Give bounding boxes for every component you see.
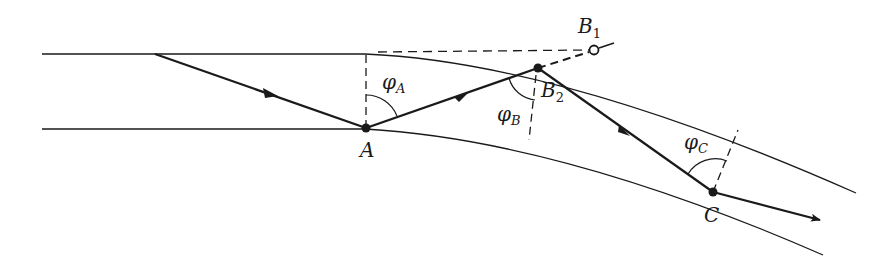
ray-diagram: A B1 B2 C φA φB φC xyxy=(0,0,894,269)
point-C xyxy=(709,188,718,197)
upper-boundary xyxy=(42,54,856,193)
direction-arrow-3 xyxy=(618,125,630,136)
label-phi-C: φC xyxy=(684,130,708,156)
label-phi-B: φB xyxy=(497,102,521,128)
point-B1 xyxy=(590,46,599,55)
label-C: C xyxy=(704,203,719,227)
angle-arc-B xyxy=(509,78,535,100)
label-B1: B1 xyxy=(577,14,601,41)
normal-at-B xyxy=(529,75,536,140)
point-B2 xyxy=(534,64,543,73)
direction-arrow-2 xyxy=(454,92,469,102)
label-phi-A: φA xyxy=(382,70,405,96)
angle-arc-C xyxy=(688,159,727,174)
angle-arc-A xyxy=(366,95,397,116)
tangent-extension-dashed xyxy=(378,50,590,52)
point-A xyxy=(362,124,371,133)
label-A: A xyxy=(358,138,374,162)
ray-extension-dashed xyxy=(538,52,589,68)
ray-extension-tail xyxy=(599,43,614,48)
label-B2: B2 xyxy=(540,78,564,105)
ray-segment-incident xyxy=(155,54,366,128)
